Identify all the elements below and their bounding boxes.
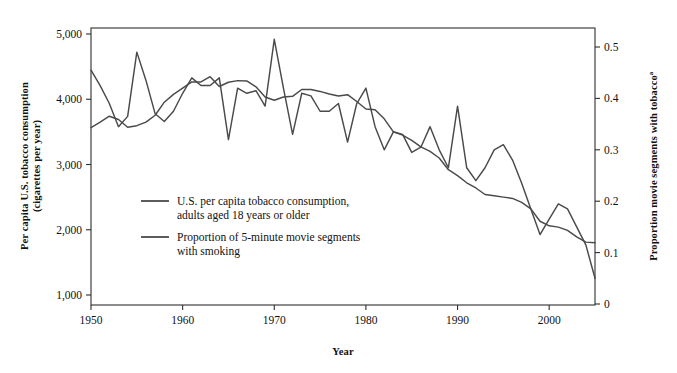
legend-label-line1: Proportion of 5-minute movie segments (177, 231, 361, 244)
y-axis-right-tick-labels: 0.50.40.30.20.10 (604, 41, 619, 310)
legend-label-line1: U.S. per capita tobacco consumption, (177, 195, 349, 208)
x-tick-label: 1970 (263, 314, 286, 326)
y-left-tick-label: 5,000 (56, 28, 82, 41)
x-tick-label: 1950 (80, 314, 103, 326)
y-axis-right-title: Proportion movie segments with tobacco a (647, 71, 659, 261)
y-axis-left-title-line1: Per capita U.S. tobacco consumption (19, 82, 30, 250)
y-axis-left-tick-labels: 5,0004,0003,0002,0001,000 (56, 28, 82, 302)
y-axis-left-title-line2: (cigarettes per year) (31, 120, 43, 212)
y-left-tick-label: 3,000 (56, 159, 82, 172)
y-right-tick-label: 0.2 (604, 195, 619, 207)
legend-entry: Proportion of 5-minute movie segmentswit… (141, 231, 361, 258)
y-right-tick-label: 0.3 (604, 144, 619, 156)
y-right-tick-label: 0.4 (604, 92, 619, 104)
x-axis-title: Year (332, 346, 354, 357)
y-axis-left-ticks (86, 34, 91, 295)
x-tick-label: 2000 (538, 314, 561, 326)
y-axis-right-title-text: Proportion movie segments with tobacco (648, 75, 659, 261)
plot-frame (91, 28, 595, 305)
y-left-tick-label: 1,000 (56, 289, 82, 302)
y-right-tick-label: 0 (604, 298, 610, 310)
x-tick-label: 1980 (354, 314, 377, 326)
x-axis-tick-labels: 195019601970198019902000 (80, 314, 561, 326)
legend-entry: U.S. per capita tobacco consumption,adul… (141, 195, 349, 222)
chart-legend: U.S. per capita tobacco consumption,adul… (141, 195, 361, 258)
y-axis-right-ticks (595, 47, 600, 304)
x-tick-label: 1990 (446, 314, 469, 326)
series-line-tobacco-consumption (91, 77, 595, 243)
figure-container: 195019601970198019902000 5,0004,0003,000… (0, 0, 677, 373)
line-chart: 195019601970198019902000 5,0004,0003,000… (0, 0, 677, 373)
y-left-tick-label: 2,000 (56, 224, 82, 237)
y-left-tick-label: 4,000 (56, 93, 82, 106)
legend-label-line2: adults aged 18 years or older (177, 209, 310, 222)
y-right-tick-label: 0.1 (604, 247, 619, 259)
y-axis-right-title-superscript: a (647, 71, 655, 75)
y-axis-left-title: Per capita U.S. tobacco consumption (cig… (19, 82, 43, 250)
x-axis-ticks (91, 305, 549, 310)
x-tick-label: 1960 (171, 314, 194, 326)
legend-label-line2: with smoking (177, 245, 240, 258)
y-right-tick-label: 0.5 (604, 41, 619, 53)
